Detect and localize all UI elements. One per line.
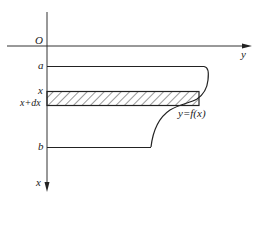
- x-label: x: [38, 85, 43, 96]
- b-label: b: [38, 141, 44, 152]
- hatched-strip: [47, 92, 199, 106]
- origin-label: O: [35, 35, 43, 46]
- horizontal-axis: [7, 44, 252, 49]
- curve-label: y=f(x): [178, 108, 206, 119]
- arrow-down-icon: [45, 182, 50, 192]
- x-axis-label: x: [36, 177, 41, 188]
- x-plus-dx-label: x+dx: [20, 98, 41, 108]
- y-axis-label: y: [241, 49, 246, 60]
- a-label: a: [38, 60, 44, 71]
